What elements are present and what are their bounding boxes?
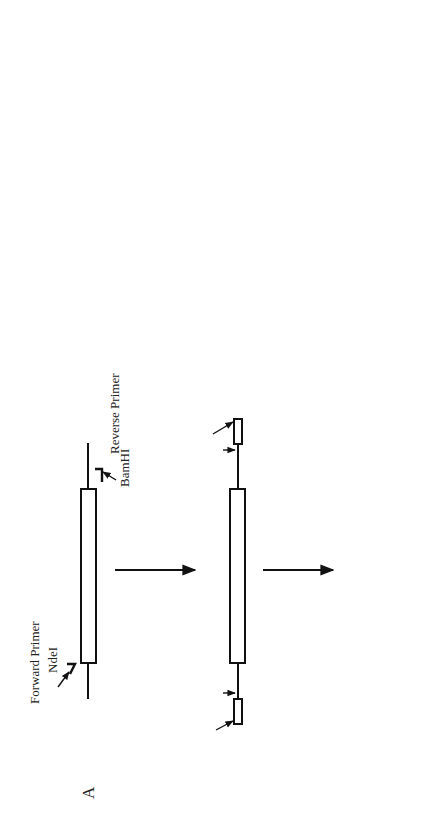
smai-arrow-icon xyxy=(213,422,233,434)
smai-arrow-icon xyxy=(216,721,233,730)
ndei-arrow-icon xyxy=(58,672,69,687)
panel-b-construct xyxy=(213,419,245,730)
forward-primer-label: Forward Primer xyxy=(28,621,41,704)
bamhi-arrow-icon xyxy=(103,472,116,480)
cloning-diagram: Forward Primer NdeI Reverse Primer BamHI… xyxy=(0,0,422,824)
panel-a-construct xyxy=(58,443,116,699)
forward-ndei-label: NdeI xyxy=(46,647,59,673)
reverse-bamhi-label: BamHI xyxy=(118,449,131,487)
panel-a-label: A xyxy=(80,787,97,799)
diagram-graphics xyxy=(0,0,422,824)
reverse-primer-hook-icon xyxy=(95,469,102,482)
reverse-primer-label: Reverse Primer xyxy=(108,373,121,454)
